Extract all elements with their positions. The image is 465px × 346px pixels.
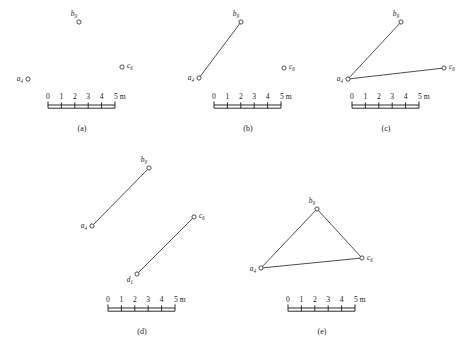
scale-bar-label-4: 4: [160, 295, 164, 304]
scale-bar-label-0: 0: [286, 295, 290, 304]
panel-caption: (b): [243, 124, 253, 133]
scale-bar-label-2: 2: [133, 295, 137, 304]
scale-bar-label-3: 3: [390, 92, 394, 101]
station-point-c: [282, 66, 286, 70]
station-point-c: [360, 256, 364, 260]
scale-bar-label-2: 2: [313, 295, 317, 304]
scale-bar-label-1: 1: [364, 92, 368, 101]
panel-caption: (a): [78, 124, 87, 133]
scale-bar-label-2: 2: [73, 92, 77, 101]
scale-bar-label-0: 0: [212, 92, 216, 101]
edge-a-b: [261, 209, 317, 268]
scale-bar-label-5: 5 m: [174, 295, 186, 304]
station-label-a: a4: [188, 73, 195, 83]
station-label-a: a4: [250, 264, 257, 274]
scale-bar-label-2: 2: [239, 92, 243, 101]
edge-a-b: [92, 168, 149, 226]
scale-bar-label-3: 3: [86, 92, 90, 101]
station-label-b: b9: [309, 196, 316, 206]
panel-d: b9c6a4d1012345 m(d): [81, 155, 206, 336]
scale-bar-label-5: 5 m: [418, 92, 430, 101]
station-point-d: [135, 272, 139, 276]
scale-bar-label-1: 1: [300, 295, 304, 304]
station-label-d: d1: [127, 275, 133, 285]
station-point-b: [77, 20, 81, 24]
edge-d-c: [137, 217, 194, 274]
panel-a: b9c6a4012345 m(a): [17, 9, 134, 133]
station-label-c: c6: [449, 62, 455, 72]
edge-a-b: [348, 22, 401, 79]
scale-bar: 012345 m: [106, 295, 186, 311]
figure-root: b9c6a4012345 m(a)b9c6a4012345 m(b)b9c6a4…: [0, 0, 465, 346]
station-label-a: a4: [81, 221, 88, 231]
scale-bar: 012345 m: [286, 295, 366, 311]
edge-a-c: [348, 68, 444, 79]
scale-bar-label-2: 2: [377, 92, 381, 101]
scale-bar: 012345 m: [350, 92, 430, 108]
station-label-b: b9: [233, 9, 240, 19]
station-label-c: c6: [289, 62, 295, 72]
station-point-a: [90, 224, 94, 228]
scale-bar-label-5: 5 m: [280, 92, 292, 101]
survey-figure-canvas: b9c6a4012345 m(a)b9c6a4012345 m(b)b9c6a4…: [0, 0, 465, 346]
scale-bar: 012345 m: [46, 92, 126, 108]
scale-bar-label-0: 0: [350, 92, 354, 101]
station-label-a: a4: [337, 74, 344, 84]
station-label-b: b9: [393, 9, 400, 19]
station-point-a: [197, 76, 201, 80]
station-label-c: c6: [199, 211, 205, 221]
scale-bar-label-5: 5 m: [114, 92, 126, 101]
scale-bar-label-3: 3: [146, 295, 150, 304]
scale-bar-label-1: 1: [60, 92, 64, 101]
station-point-c: [192, 215, 196, 219]
scale-bar-label-5: 5 m: [354, 295, 366, 304]
edge-a-b: [199, 22, 241, 78]
scale-bar-label-0: 0: [46, 92, 50, 101]
scale-bar: 012345 m: [212, 92, 292, 108]
scale-bar-label-4: 4: [100, 92, 104, 101]
station-point-b: [239, 20, 243, 24]
station-point-a: [26, 77, 30, 81]
station-point-b: [315, 207, 319, 211]
scale-bar-label-4: 4: [340, 295, 344, 304]
station-label-a: a4: [17, 74, 24, 84]
station-point-c: [120, 65, 124, 69]
station-label-b: b9: [141, 155, 148, 165]
scale-bar-label-4: 4: [404, 92, 408, 101]
station-point-a: [259, 266, 263, 270]
panel-b: b9c6a4012345 m(b): [188, 9, 296, 133]
scale-bar-label-3: 3: [326, 295, 330, 304]
panel-caption: (d): [137, 327, 147, 336]
station-point-b: [147, 166, 151, 170]
station-label-c: c6: [367, 253, 373, 263]
scale-bar-label-3: 3: [252, 92, 256, 101]
station-point-a: [346, 77, 350, 81]
panel-e: b9c6a4012345 m(e): [250, 196, 374, 336]
scale-bar-label-1: 1: [120, 295, 124, 304]
station-point-c: [442, 66, 446, 70]
panel-c: b9c6a4012345 m(c): [337, 9, 456, 133]
edge-a-c: [261, 258, 362, 268]
edge-b-c: [317, 209, 362, 258]
station-label-c: c6: [127, 61, 133, 71]
station-label-b: b9: [71, 9, 78, 19]
scale-bar-label-1: 1: [226, 92, 230, 101]
scale-bar-label-4: 4: [266, 92, 270, 101]
panel-caption: (c): [382, 124, 391, 133]
scale-bar-label-0: 0: [106, 295, 110, 304]
panel-caption: (e): [318, 327, 327, 336]
station-point-b: [399, 20, 403, 24]
